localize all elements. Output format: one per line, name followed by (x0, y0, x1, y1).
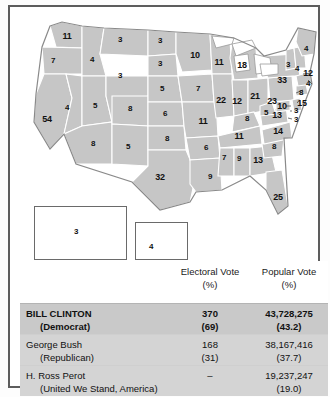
state-votes-ut: 5 (93, 102, 97, 110)
state-votes-mn: 10 (190, 51, 200, 60)
table-body: BILL CLINTON(Democrat)370(69)43,728,275(… (20, 303, 328, 396)
state-votes-wa: 11 (62, 32, 71, 41)
state-votes-ky: 8 (245, 115, 249, 123)
state-votes-ri: 4 (306, 80, 310, 88)
state-votes-nm: 5 (126, 143, 130, 151)
results-table: Electoral Vote (%) Popular Vote (%) BILL… (20, 261, 328, 392)
electoral-vote-value: 168 (202, 339, 218, 350)
state-shape-ne (148, 76, 182, 102)
popular-vote-value: 38,167,416 (265, 339, 313, 350)
popular-vote-percent: (43.2) (252, 320, 326, 333)
state-votes-il: 22 (216, 96, 226, 105)
state-votes-md: 10 (277, 102, 287, 111)
popular-vote-value: 43,728,275 (265, 308, 313, 319)
state-votes-fl: 25 (273, 193, 283, 202)
state-votes-mt: 3 (118, 36, 122, 44)
candidate-cell: H. Ross Perot(United We Stand, America) (26, 369, 158, 395)
electoral-vote-cell: – (170, 369, 250, 382)
candidate-name: George Bush (26, 339, 82, 350)
state-votes-dc: 3 (294, 116, 298, 124)
state-votes-nh: 4 (295, 65, 299, 73)
inset-votes-ak: 3 (74, 228, 78, 236)
state-shape-or (42, 47, 82, 74)
us-electoral-map: 1175444335885335683210711691122181221811… (20, 14, 328, 261)
election-map-figure: 1175444335885335683210711691122181221811… (0, 0, 330, 397)
header-electoral-percent: (%) (170, 278, 250, 291)
figure-frame: 1175444335885335683210711691122181221811… (8, 5, 320, 388)
state-votes-me: 4 (304, 45, 308, 53)
state-votes-al: 9 (237, 155, 241, 163)
hawaii-inset-box (135, 222, 188, 260)
state-votes-az: 8 (91, 140, 95, 148)
header-popular-percent: (%) (252, 278, 326, 291)
state-votes-sd: 3 (158, 60, 162, 68)
header-electoral-vote: Electoral Vote (%) (170, 265, 250, 291)
state-votes-nc: 14 (273, 127, 283, 136)
header-popular-label: Popular Vote (262, 266, 316, 277)
state-votes-ny: 33 (277, 76, 287, 85)
state-votes-wv: 5 (264, 109, 268, 117)
state-votes-ar: 6 (204, 144, 208, 152)
candidate-name: BILL CLINTON (26, 308, 92, 319)
state-votes-wi: 11 (214, 58, 223, 67)
electoral-vote-percent: (69) (170, 320, 250, 333)
candidate-cell: George Bush(Republican) (26, 338, 94, 364)
candidate-name: H. Ross Perot (26, 370, 85, 381)
state-shape-mt (100, 28, 148, 56)
state-votes-ca: 54 (42, 115, 52, 124)
state-votes-id: 4 (90, 56, 94, 64)
state-votes-mi: 18 (237, 61, 247, 70)
state-shape-ms (218, 148, 234, 176)
electoral-vote-percent: (31) (170, 351, 250, 364)
popular-vote-percent: (37.7) (252, 351, 326, 364)
state-votes-ga: 13 (253, 156, 263, 165)
state-votes-mo: 11 (198, 117, 207, 126)
state-votes-tn: 11 (234, 132, 243, 141)
state-votes-nv: 4 (65, 104, 69, 112)
state-votes-nd: 3 (158, 37, 162, 45)
popular-vote-cell: 38,167,416(37.7) (252, 338, 326, 364)
state-votes-ia: 7 (196, 85, 200, 93)
electoral-vote-cell: 370(69) (170, 307, 250, 333)
electoral-vote-value: – (207, 370, 212, 381)
state-votes-co: 8 (128, 105, 132, 113)
state-shape-sd (148, 54, 178, 76)
alaska-inset-box (34, 206, 127, 260)
electoral-vote-cell: 168(31) (170, 338, 250, 364)
table-row: H. Ross Perot(United We Stand, America)–… (20, 365, 328, 396)
table-row: George Bush(Republican)168(31)38,167,416… (20, 334, 328, 365)
state-votes-sc: 8 (272, 143, 276, 151)
state-votes-va: 13 (272, 111, 282, 120)
state-votes-pa: 23 (267, 97, 277, 106)
state-votes-tx: 32 (155, 173, 165, 182)
state-votes-la: 9 (208, 173, 212, 181)
popular-vote-cell: 19,237,247(19.0) (252, 369, 326, 395)
state-votes-or: 7 (51, 57, 55, 65)
state-shape-la (190, 158, 222, 192)
header-electoral-label: Electoral Vote (181, 266, 240, 277)
popular-vote-value: 19,237,247 (265, 370, 313, 381)
popular-vote-percent: (19.0) (252, 382, 326, 395)
state-votes-ma: 12 (303, 69, 313, 78)
state-votes-de: 3 (294, 107, 298, 115)
candidate-cell: BILL CLINTON(Democrat) (26, 307, 92, 333)
popular-vote-cell: 43,728,275(43.2) (252, 307, 326, 333)
state-votes-ok: 8 (165, 135, 169, 143)
candidate-party: (Republican) (26, 351, 94, 364)
candidate-party: (Democrat) (26, 320, 92, 333)
header-popular-vote: Popular Vote (%) (252, 265, 326, 291)
state-votes-in: 12 (232, 97, 242, 106)
candidate-party: (United We Stand, America) (26, 382, 158, 395)
state-votes-oh: 21 (250, 92, 260, 101)
state-votes-nj: 15 (297, 99, 307, 108)
electoral-vote-value: 370 (202, 308, 218, 319)
state-votes-ne: 5 (160, 85, 164, 93)
state-votes-wy: 3 (118, 72, 122, 80)
state-votes-ks: 6 (163, 110, 167, 118)
table-row: BILL CLINTON(Democrat)370(69)43,728,275(… (20, 303, 328, 334)
state-votes-ms: 7 (222, 154, 226, 162)
state-votes-ct: 8 (299, 89, 303, 97)
inset-votes-hi: 4 (149, 243, 153, 251)
table-header-row: Electoral Vote (%) Popular Vote (%) (20, 261, 328, 303)
state-votes-vt: 3 (286, 61, 290, 69)
